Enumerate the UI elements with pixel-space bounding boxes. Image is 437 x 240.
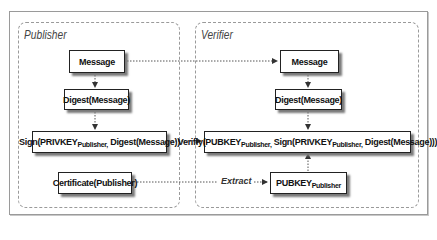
verifier-digest-box: Digest(Message) <box>275 89 342 110</box>
verifier-verify-box: Verifiy(PUBKEYPublisher, Sign(PRIVKEYPub… <box>204 131 411 153</box>
verifier-digest-text: Digest(Message) <box>275 95 342 105</box>
verifier-pubkey-text: PUBKEYPublisher <box>276 178 341 189</box>
publisher-sign-box: Sign(PRIVKEYPublisher, Digest(Message)) <box>32 131 167 153</box>
publisher-digest-box: Digest(Message) <box>64 89 129 110</box>
publisher-message-text: Message <box>79 57 115 67</box>
publisher-message-box: Message <box>69 50 125 73</box>
publisher-certificate-box: Certificate(Publisher) <box>58 172 132 194</box>
publisher-certificate-text: Certificate(Publisher) <box>53 178 137 188</box>
publisher-sign-text: Sign(PRIVKEYPublisher, Digest(Message)) <box>19 137 180 148</box>
verifier-verify-text: Verifiy(PUBKEYPublisher, Sign(PRIVKEYPub… <box>178 137 437 148</box>
verifier-message-box: Message <box>280 50 339 73</box>
verifier-pubkey-box: PUBKEYPublisher <box>270 172 347 194</box>
publisher-digest-text: Digest(Message) <box>63 95 130 105</box>
verifier-message-text: Message <box>292 57 328 67</box>
extract-edge-label: Extract <box>219 176 254 186</box>
